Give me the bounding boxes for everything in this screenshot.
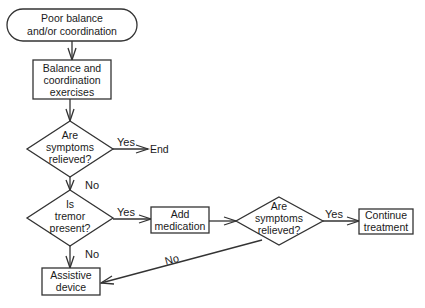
decision-tremor-present: Is tremor present?	[27, 190, 113, 246]
decision3-yes-label: Yes	[325, 208, 343, 220]
exercises-text-3: exercises	[50, 86, 94, 98]
arrow-medication-to-decision3	[209, 217, 236, 225]
decision2-no-label: No	[85, 248, 99, 260]
continue-text-2: treatment	[364, 221, 408, 233]
arrow-decision3-yes-to-continue: Yes	[323, 208, 359, 225]
arrow-decision1-no-to-decision2: No	[66, 177, 99, 191]
decision2-text-3: present?	[50, 222, 91, 234]
decision3-text-3: relieved?	[258, 224, 301, 236]
start-text-2: and/or coordination	[27, 25, 117, 37]
flowchart: Poor balance and/or coordination Balance…	[0, 0, 425, 308]
arrow-decision1-yes-to-end: Yes	[113, 136, 148, 153]
continue-text-1: Continue	[365, 209, 407, 221]
arrow-exercises-to-decision1	[66, 99, 74, 121]
arrow-decision2-yes-to-medication: Yes	[113, 206, 151, 223]
decision1-text-2: symptoms	[46, 141, 94, 153]
start-text-1: Poor balance	[41, 12, 103, 24]
decision-symptoms-relieved-2: Are symptoms relieved?	[236, 197, 323, 245]
decision3-text-2: symptoms	[255, 212, 303, 224]
medication-box: Add medication	[151, 207, 209, 233]
assistive-text-2: device	[56, 281, 87, 293]
decision1-text-1: Are	[62, 129, 79, 141]
continue-treatment-box: Continue treatment	[359, 209, 413, 234]
decision3-text-1: Are	[271, 200, 288, 212]
medication-text-1: Add	[171, 208, 190, 220]
exercises-text-1: Balance and	[43, 62, 102, 74]
arrow-decision3-no-to-assistive: No	[101, 240, 262, 284]
decision3-no-label: No	[163, 252, 180, 267]
decision2-text-1: Is	[66, 198, 74, 210]
medication-text-2: medication	[155, 220, 206, 232]
exercises-box: Balance and coordination exercises	[33, 60, 111, 99]
start-terminal: Poor balance and/or coordination	[7, 9, 137, 41]
decision2-yes-label: Yes	[117, 206, 135, 218]
arrow-start-to-exercises	[68, 41, 76, 60]
decision1-no-label: No	[85, 179, 99, 191]
exercises-text-2: coordination	[43, 74, 100, 86]
decision-symptoms-relieved-1: Are symptoms relieved?	[27, 121, 113, 177]
arrow-decision2-no-to-assistive: No	[66, 246, 99, 268]
assistive-text-1: Assistive	[50, 269, 92, 281]
assistive-device-box: Assistive device	[42, 268, 100, 295]
decision1-text-3: relieved?	[49, 153, 92, 165]
end-label: End	[150, 143, 169, 155]
decision2-text-2: tremor	[55, 210, 86, 222]
decision1-yes-label: Yes	[117, 136, 135, 148]
